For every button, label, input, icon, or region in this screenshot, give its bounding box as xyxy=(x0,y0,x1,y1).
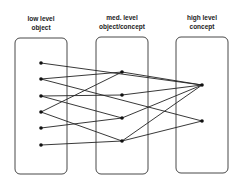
node-L2 xyxy=(39,77,43,81)
node-L4 xyxy=(39,110,43,114)
edge-L3-M2 xyxy=(41,95,122,96)
hierarchy-diagram xyxy=(0,0,241,184)
box-high-level xyxy=(176,37,228,173)
node-M2 xyxy=(120,93,124,97)
node-R1 xyxy=(200,83,204,87)
edge-L3-M3 xyxy=(41,96,122,118)
node-M1 xyxy=(120,70,124,74)
node-L1 xyxy=(39,61,43,65)
edge-M4-R2 xyxy=(122,121,202,141)
edge-L1-R1 xyxy=(41,63,202,85)
box-low-level xyxy=(15,38,67,174)
node-L5 xyxy=(39,126,43,130)
node-L3 xyxy=(39,94,43,98)
edge-M1-R1 xyxy=(122,72,202,85)
edge-L6-M4 xyxy=(41,141,122,145)
node-M3 xyxy=(120,116,124,120)
node-R2 xyxy=(200,119,204,123)
node-L6 xyxy=(39,143,43,147)
node-M4 xyxy=(120,139,124,143)
box-med-level xyxy=(96,37,148,174)
